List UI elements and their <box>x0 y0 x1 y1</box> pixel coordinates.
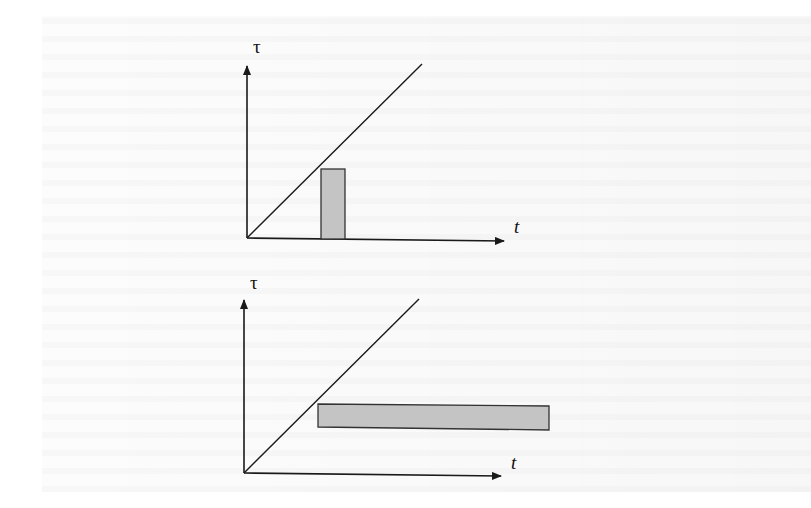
panel-top: τ t <box>247 36 520 241</box>
shaded-region-top <box>321 169 345 239</box>
t-axis-label-top: t <box>514 216 520 237</box>
t-axis-label-bottom: t <box>511 452 517 473</box>
integration-region-figure: τ t τ t <box>0 0 811 508</box>
tau-axis-label-bottom: τ <box>250 272 258 293</box>
shaded-region-bottom <box>318 404 549 430</box>
panel-bottom: τ t <box>244 272 549 476</box>
diagonal-line-bottom <box>244 299 419 473</box>
tau-axis-label-top: τ <box>253 36 261 57</box>
x-axis-bottom <box>244 473 501 476</box>
x-axis-top <box>247 238 504 241</box>
